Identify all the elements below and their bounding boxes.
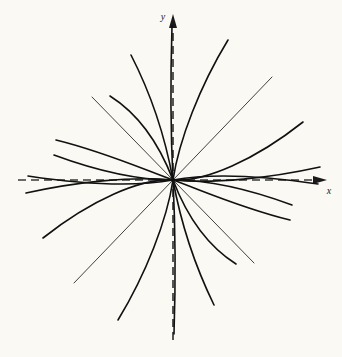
x-axis-label: x [326, 185, 332, 196]
phase-portrait-figure: x y [0, 0, 342, 357]
y-axis-label: y [160, 11, 166, 22]
phase-portrait-plot: x y [0, 0, 342, 357]
